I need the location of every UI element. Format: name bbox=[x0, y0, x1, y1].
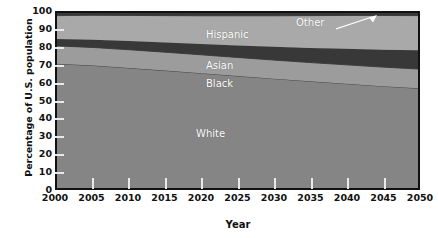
series-label-black: Black bbox=[206, 78, 233, 89]
x-tick-label: 2030 bbox=[254, 193, 294, 203]
x-tick-label: 2040 bbox=[327, 193, 367, 203]
x-tick-label: 2025 bbox=[218, 193, 258, 203]
y-tick-mark bbox=[55, 118, 64, 120]
y-tick-label: 90 bbox=[24, 24, 52, 34]
y-tick-label: 70 bbox=[24, 60, 52, 70]
x-tick-mark bbox=[165, 178, 167, 189]
x-tick-mark bbox=[384, 178, 386, 189]
series-label-white: White bbox=[196, 128, 225, 139]
x-tick-mark bbox=[128, 178, 130, 189]
x-tick-mark bbox=[92, 178, 94, 189]
y-tick-mark bbox=[55, 47, 64, 49]
y-tick-label: 10 bbox=[24, 167, 52, 177]
y-tick-mark bbox=[55, 172, 64, 174]
x-tick-mark bbox=[311, 178, 313, 189]
x-axis-tick-labels: 2000200520102015202020252030203520402045… bbox=[0, 193, 438, 209]
chart-figure: Percentage of U.S. population 0102030405… bbox=[0, 0, 438, 238]
y-tick-mark bbox=[55, 101, 64, 103]
y-tick-label: 80 bbox=[24, 42, 52, 52]
y-tick-label: 60 bbox=[24, 78, 52, 88]
x-tick-label: 2005 bbox=[72, 193, 112, 203]
series-label-other: Other bbox=[296, 17, 324, 28]
x-tick-mark bbox=[347, 178, 349, 189]
y-tick-mark bbox=[55, 136, 64, 138]
y-tick-mark bbox=[55, 154, 64, 156]
x-tick-label: 2035 bbox=[291, 193, 331, 203]
x-tick-mark bbox=[201, 178, 203, 189]
y-tick-mark bbox=[55, 65, 64, 67]
y-tick-mark bbox=[55, 29, 64, 31]
y-tick-label: 30 bbox=[24, 131, 52, 141]
x-axis-title: Year bbox=[55, 219, 421, 230]
y-tick-label: 40 bbox=[24, 113, 52, 123]
x-tick-mark bbox=[238, 178, 240, 189]
y-tick-label: 20 bbox=[24, 149, 52, 159]
other-callout-arrow-icon bbox=[336, 14, 380, 32]
x-tick-label: 2045 bbox=[364, 193, 404, 203]
series-label-asian: Asian bbox=[206, 60, 233, 71]
series-label-hispanic: Hispanic bbox=[206, 29, 249, 40]
x-tick-label: 2050 bbox=[400, 193, 438, 203]
x-tick-label: 2020 bbox=[181, 193, 221, 203]
y-tick-mark bbox=[55, 83, 64, 85]
x-tick-label: 2010 bbox=[108, 193, 148, 203]
x-tick-label: 2015 bbox=[145, 193, 185, 203]
y-tick-label: 100 bbox=[24, 6, 52, 16]
y-tick-label: 50 bbox=[24, 96, 52, 106]
x-tick-label: 2000 bbox=[35, 193, 75, 203]
x-tick-mark bbox=[274, 178, 276, 189]
